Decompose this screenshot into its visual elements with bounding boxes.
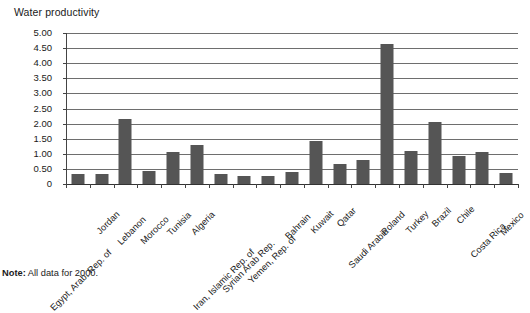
bar[interactable]	[357, 160, 370, 184]
x-tick-mark	[470, 184, 471, 188]
x-tick-mark	[66, 184, 67, 188]
bar[interactable]	[143, 171, 156, 184]
x-axis-label-text: Egypt, Arab. Rep. of	[49, 248, 114, 313]
bar-slot	[161, 33, 185, 184]
chart-title: Water productivity	[14, 6, 99, 18]
y-tick-label: 5.00	[34, 28, 53, 38]
bar[interactable]	[452, 156, 465, 184]
y-tick-label: 4.50	[34, 43, 53, 53]
chart-footnote: Note: All data for 2000.	[2, 268, 98, 278]
x-tick-mark	[399, 184, 400, 188]
bar[interactable]	[262, 176, 275, 184]
x-tick-mark	[90, 184, 91, 188]
bar[interactable]	[404, 151, 417, 184]
x-tick-mark	[256, 184, 257, 188]
y-tick-label: 4.00	[34, 58, 53, 68]
bar-slot	[351, 33, 375, 184]
bar-slot	[399, 33, 423, 184]
bar[interactable]	[95, 174, 108, 184]
bar[interactable]	[476, 152, 489, 184]
x-tick-mark	[328, 184, 329, 188]
footnote-label: Note:	[2, 268, 26, 278]
x-axis-label-text: Chile	[455, 205, 476, 226]
bar[interactable]	[71, 174, 84, 184]
y-tick-label: 3.50	[34, 74, 53, 84]
bar[interactable]	[238, 176, 251, 184]
bar[interactable]	[214, 174, 227, 184]
bar[interactable]	[119, 119, 132, 184]
bar-slot	[256, 33, 280, 184]
bar-slot	[137, 33, 161, 184]
x-tick-mark	[233, 184, 234, 188]
x-tick-mark	[304, 184, 305, 188]
x-tick-mark	[447, 184, 448, 188]
bar-slot	[447, 33, 471, 184]
x-axis-label: Algeria	[210, 190, 237, 217]
bars-layer	[66, 33, 518, 184]
bar-slot	[280, 33, 304, 184]
x-axis-label-text: Mexico	[499, 211, 526, 238]
x-tick-mark	[494, 184, 495, 188]
x-tick-mark	[280, 184, 281, 188]
x-tick-mark	[114, 184, 115, 188]
bar[interactable]	[500, 173, 513, 184]
bar-slot	[494, 33, 518, 184]
y-tick-label: 1.00	[34, 149, 53, 159]
y-tick-label: 2.00	[34, 119, 53, 129]
x-axis-label-text: Iran, Islamic Rep. of	[192, 248, 256, 312]
bar-slot	[304, 33, 328, 184]
x-tick-mark	[137, 184, 138, 188]
y-tick-label: 0	[47, 179, 52, 189]
bar-slot	[114, 33, 138, 184]
bar[interactable]	[285, 172, 298, 184]
y-tick-label: 3.00	[34, 89, 53, 99]
x-tick-mark	[518, 184, 519, 188]
bar[interactable]	[333, 164, 346, 184]
x-axis: Egypt, Arab. Rep. ofJordanLebanonMorocco…	[66, 184, 518, 254]
bar-slot	[185, 33, 209, 184]
y-axis: 5.004.504.003.503.002.502.001.501.000.50…	[0, 33, 60, 184]
x-axis-label: Chile	[470, 190, 491, 211]
bar[interactable]	[428, 122, 441, 184]
x-axis-label-text: Jordan	[95, 210, 121, 236]
bar[interactable]	[381, 44, 394, 184]
bar-slot	[233, 33, 257, 184]
bar-slot	[375, 33, 399, 184]
bar-slot	[470, 33, 494, 184]
bar-slot	[209, 33, 233, 184]
x-axis-label: Qatar	[352, 190, 375, 213]
x-tick-mark	[161, 184, 162, 188]
x-axis-label: Jordan	[115, 190, 141, 216]
y-tick-label: 1.50	[34, 134, 53, 144]
bar-slot	[66, 33, 90, 184]
x-tick-mark	[423, 184, 424, 188]
x-tick-mark	[185, 184, 186, 188]
bar-slot	[328, 33, 352, 184]
x-tick-mark	[209, 184, 210, 188]
bar[interactable]	[167, 152, 180, 184]
x-axis-label-text: Poland	[381, 210, 408, 237]
bar[interactable]	[309, 141, 322, 184]
bar-slot	[90, 33, 114, 184]
bar[interactable]	[190, 145, 203, 184]
bar-slot	[423, 33, 447, 184]
x-tick-mark	[375, 184, 376, 188]
y-tick-label: 2.50	[34, 104, 53, 114]
x-tick-mark	[351, 184, 352, 188]
y-tick-label: 0.50	[34, 164, 53, 174]
footnote-text: All data for 2000.	[26, 268, 98, 278]
